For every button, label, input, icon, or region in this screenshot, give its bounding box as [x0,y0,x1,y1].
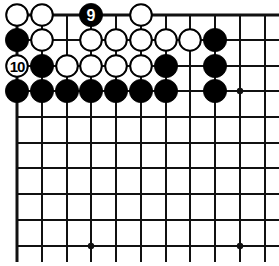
white-stone [31,4,53,26]
star-point-icon [237,88,243,94]
white-stone [155,29,177,51]
move-number-label: 10 [10,58,25,75]
black-stone [129,79,152,102]
go-board: 910 [0,0,279,266]
white-stone [31,29,53,51]
black-stone-9: 9 [79,3,102,26]
white-stone [130,4,152,26]
black-stone [5,79,28,102]
white-stone [6,4,28,26]
white-stone [56,55,78,77]
black-stone [104,79,127,102]
black-stone [30,79,53,102]
black-stone [203,28,226,51]
black-stone [203,79,226,102]
black-stone [154,54,177,77]
white-stone [80,29,102,51]
white-stone [130,55,152,77]
black-stone [203,54,226,77]
white-stone [105,55,127,77]
white-stone [80,55,102,77]
black-stone [30,54,53,77]
star-point-icon [88,243,94,249]
black-stone [55,79,78,102]
white-stone [105,29,127,51]
move-number-label: 9 [87,7,96,24]
white-stone [130,29,152,51]
white-stone [179,29,201,51]
black-stone [5,28,28,51]
black-stone [79,79,102,102]
white-stone-10: 10 [6,55,28,77]
board-grid [17,15,279,262]
star-point-icon [237,243,243,249]
black-stone [154,79,177,102]
